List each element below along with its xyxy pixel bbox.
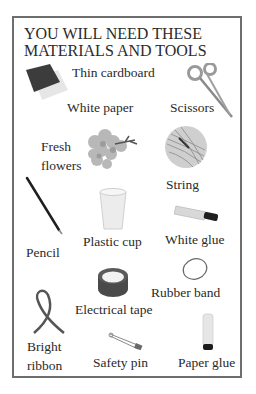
item-label-paper-glue: Paper glue [178, 355, 235, 370]
item-label-scissors: Scissors [170, 100, 214, 115]
item-label-fresh-flowers: Fresh flowers [41, 137, 82, 175]
glue-stick-icon [201, 312, 215, 352]
title-line-2: MATERIALS AND TOOLS [24, 42, 207, 59]
item-label-white-glue: White glue [165, 232, 225, 247]
item-label-rubber-band: Rubber band [151, 285, 220, 300]
title-line-1: YOU WILL NEED THESE [24, 25, 207, 42]
safety-pin-icon [108, 330, 144, 352]
flowers-icon [85, 128, 141, 172]
glue-tube-icon [174, 204, 222, 226]
string-ball-icon [163, 124, 209, 170]
rubber-band-icon [180, 256, 210, 282]
item-label-electrical-tape: Electrical tape [75, 302, 153, 317]
cardboard-icon [24, 64, 70, 104]
page-title: YOU WILL NEED THESE MATERIALS AND TOOLS [24, 25, 207, 59]
ribbon-icon [30, 285, 68, 337]
item-label-pencil: Pencil [26, 245, 60, 260]
item-label-white-paper: White paper [67, 100, 133, 115]
item-label-safety-pin: Safety pin [93, 355, 148, 370]
item-label-bright-ribbon: Bright ribbon [27, 337, 62, 375]
plastic-cup-icon [98, 187, 128, 231]
tape-roll-icon [96, 267, 130, 299]
item-label-thin-cardboard: Thin cardboard [72, 65, 155, 80]
item-label-plastic-cup: Plastic cup [83, 234, 142, 249]
pencil-icon [25, 176, 65, 236]
item-label-string: String [166, 177, 199, 192]
